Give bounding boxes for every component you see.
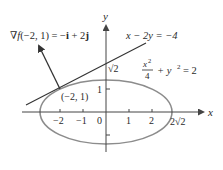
gradient-diagram: y x −2 −1 0 1 2 2√2 1 √2 x − 2y = −4 x 2… [0,0,223,170]
x-tick-label: −1 [76,115,87,126]
point-label: (−2, 1) [61,91,88,103]
ellipse-eq-y-term: + y [157,65,172,76]
x-tick-label: 1 [126,115,131,126]
origin-label: 0 [97,115,102,126]
gradient-j: j [84,30,89,41]
ellipse-eq-y-sup: 2 [177,63,181,71]
gradient-vector-arrow [39,46,60,89]
ellipse-eq-rhs: = 2 [183,65,197,76]
y-intercept-label: √2 [108,63,119,74]
gradient-args: (−2, 1) = − [20,30,66,42]
tangent-line-equation: x − 2y = −4 [125,30,178,41]
gradient-label: ∇f(−2, 1) = −i + 2j [10,30,89,42]
x-tick-label: 2 [149,115,154,126]
y-axis-label: y [102,10,108,22]
x-intercept-label: 2√2 [170,116,186,127]
y-tick-label: 1 [97,84,102,95]
ellipse-eq-denominator: 4 [145,71,150,81]
nabla-symbol: ∇ [10,30,17,41]
gradient-plus: + 2 [69,30,85,41]
ellipse-eq-numerator-sup: 2 [148,57,151,64]
x-tick-label: −2 [53,115,64,126]
ellipse-eq-numerator: x [142,59,147,69]
x-axis-label: x [207,106,213,118]
